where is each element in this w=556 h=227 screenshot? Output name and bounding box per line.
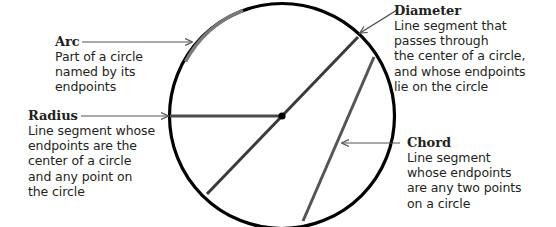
radius-title: Radius bbox=[28, 108, 155, 123]
chord-label: Chord Line segment whose endpoints are a… bbox=[407, 135, 521, 211]
radius-label: Radius Line segment whose endpoints are … bbox=[28, 108, 155, 199]
diameter-arrow bbox=[360, 10, 397, 33]
diameter-title: Diameter bbox=[394, 3, 526, 18]
arc-description: Part of a circle named by its endpoints bbox=[55, 49, 143, 95]
chord-description: Line segment whose endpoints are any two… bbox=[407, 150, 521, 211]
diameter-label: Diameter Line segment that passes throug… bbox=[394, 3, 526, 94]
radius-description: Line segment whose endpoints are the cen… bbox=[28, 123, 155, 199]
arc-highlight bbox=[186, 10, 244, 61]
center-point bbox=[278, 112, 285, 119]
diameter-description: Line segment that passes through the cen… bbox=[394, 18, 526, 94]
arc-title: Arc bbox=[55, 34, 143, 49]
arc-label: Arc Part of a circle named by its endpoi… bbox=[55, 34, 143, 95]
chord-title: Chord bbox=[407, 135, 521, 150]
